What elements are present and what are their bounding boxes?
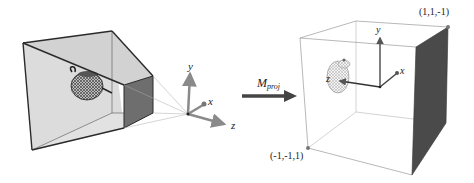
teapot-icon bbox=[327, 59, 350, 94]
ndc-x-axis bbox=[380, 74, 396, 87]
camera-x-label: x bbox=[207, 95, 213, 107]
view-frustum bbox=[23, 31, 188, 150]
projection-transform: Mproj bbox=[242, 76, 297, 102]
camera-z-axis bbox=[188, 114, 224, 124]
camera-origin bbox=[187, 113, 190, 116]
ndc-y-label: y bbox=[375, 24, 381, 35]
ndc-x-axis-tip bbox=[395, 71, 399, 75]
canonical-view-volume: y x z (1,1,-1) (-1,-1,1) bbox=[270, 6, 450, 175]
frustum-near-plane bbox=[124, 76, 153, 128]
ndc-z-label: z bbox=[325, 73, 330, 84]
camera-z-label: z bbox=[230, 119, 236, 131]
camera-x-axis-tip bbox=[202, 102, 207, 107]
corner-min-marker bbox=[306, 146, 310, 150]
transform-arrow-head bbox=[284, 90, 297, 102]
camera-axes: y x z bbox=[187, 60, 237, 131]
ndc-origin bbox=[379, 86, 382, 89]
camera-x-axis bbox=[188, 105, 203, 114]
corner-max-marker bbox=[446, 25, 450, 29]
corner-min-label: (-1,-1,1) bbox=[270, 150, 303, 162]
corner-max-label: (1,1,-1) bbox=[419, 6, 449, 18]
camera-y-label: y bbox=[187, 60, 193, 72]
transform-label: Mproj bbox=[256, 76, 281, 91]
ndc-x-label: x bbox=[399, 65, 405, 76]
projection-diagram: y x z Mproj bbox=[0, 0, 474, 183]
cube-right-face bbox=[412, 27, 448, 175]
camera-y-axis bbox=[188, 74, 190, 114]
